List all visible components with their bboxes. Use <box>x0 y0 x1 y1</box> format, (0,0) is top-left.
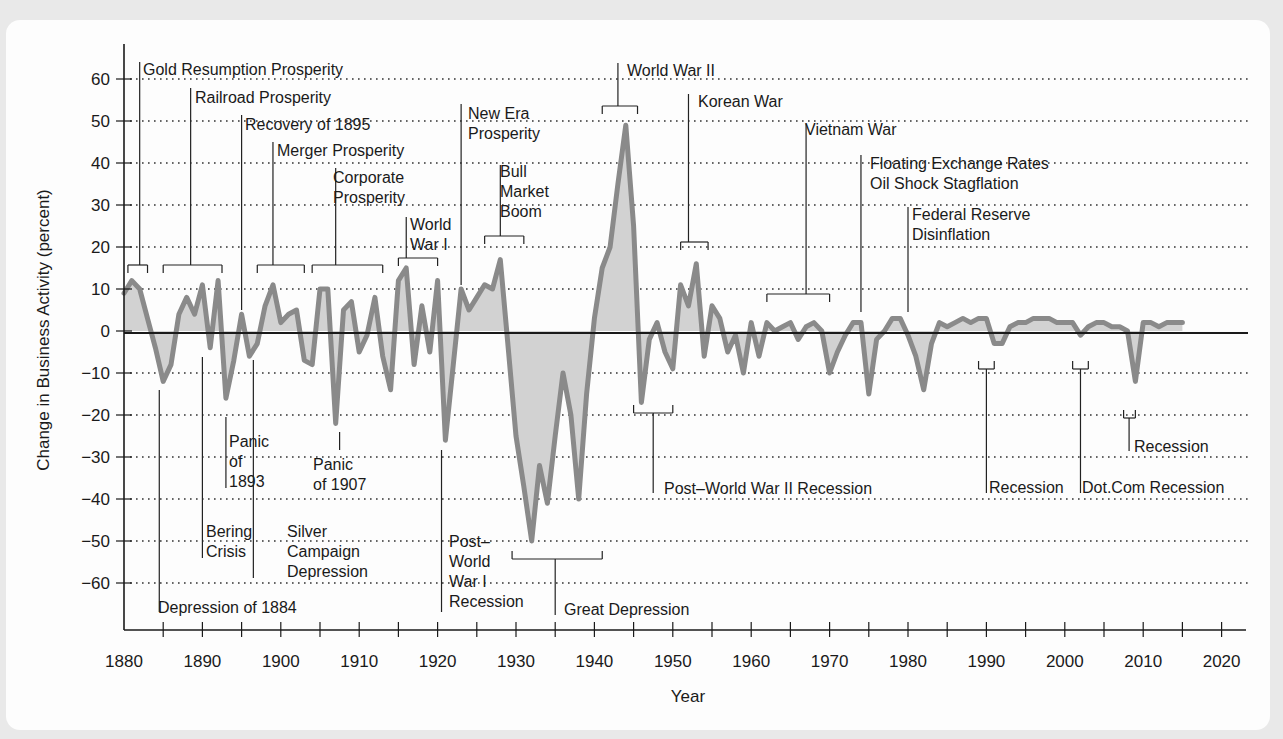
annotation-post-ww1: Post– <box>449 533 490 550</box>
annotation-post-ww1: War I <box>449 573 487 590</box>
y-tick-label: 50 <box>91 112 110 131</box>
y-tick-label: −30 <box>81 448 110 467</box>
annotation-silver: Silver <box>287 523 328 540</box>
x-tick-label: 2000 <box>1046 652 1084 671</box>
y-tick-label: −60 <box>81 574 110 593</box>
annotation-silver: Campaign <box>287 543 360 560</box>
annotation-bering: Bering <box>206 523 252 540</box>
y-tick-label: 20 <box>91 238 110 257</box>
annotation-floating-rates: Floating Exchange Rates <box>870 155 1049 172</box>
annotation-panic-1907: Panic <box>313 456 353 473</box>
annotation-bering: Crisis <box>206 543 246 560</box>
annotation-corporate: Corporate <box>333 169 404 186</box>
annotation-korean: Korean War <box>698 93 783 110</box>
x-tick-label: 2010 <box>1124 652 1162 671</box>
annotation-panic-1907: of 1907 <box>313 476 366 493</box>
annotation-ww1: World <box>410 216 452 233</box>
business-activity-chart: 6050403020100−10−20−30−40−50−60188018901… <box>6 20 1270 730</box>
annotation-panic-1893: Panic <box>229 433 269 450</box>
y-tick-label: 60 <box>91 70 110 89</box>
y-tick-label: 10 <box>91 280 110 299</box>
annotation-new-era: New Era <box>468 105 529 122</box>
annotation-recession-1990: Recession <box>989 479 1064 496</box>
annotation-recovery-1895: Recovery of 1895 <box>245 116 371 133</box>
x-tick-label: 1970 <box>811 652 849 671</box>
x-tick-label: 1950 <box>654 652 692 671</box>
annotation-post-ww1: World <box>449 553 491 570</box>
x-tick-label: 1890 <box>183 652 221 671</box>
x-tick-label: 1960 <box>732 652 770 671</box>
y-tick-label: 40 <box>91 154 110 173</box>
annotation-bull-market: Market <box>500 183 549 200</box>
x-tick-label: 1880 <box>105 652 143 671</box>
annotation-new-era: Prosperity <box>468 125 540 142</box>
annotation-fed-disinflation: Disinflation <box>912 226 990 243</box>
x-tick-label: 1910 <box>340 652 378 671</box>
annotation-panic-1893: of <box>229 453 243 470</box>
annotation-dotcom: Dot.Com Recession <box>1082 479 1224 496</box>
annotation-floating-rates: Oil Shock Stagflation <box>870 175 1019 192</box>
annotation-corporate: Prosperity <box>333 189 405 206</box>
annotation-merger: Merger Prosperity <box>277 142 404 159</box>
x-tick-label: 1900 <box>262 652 300 671</box>
y-tick-label: −10 <box>81 364 110 383</box>
x-tick-label: 1980 <box>889 652 927 671</box>
x-tick-label: 1990 <box>967 652 1005 671</box>
annotation-post-ww2: Post–World War II Recession <box>664 480 872 497</box>
y-axis-label: Change in Business Activity (percent) <box>34 189 53 471</box>
annotation-ww2: World War II <box>627 62 715 79</box>
annotation-ww1: War I <box>410 236 448 253</box>
annotation-post-ww1: Recession <box>449 593 524 610</box>
annotation-bull-market: Boom <box>500 203 542 220</box>
x-tick-label: 1940 <box>575 652 613 671</box>
annotation-vietnam: Vietnam War <box>805 121 897 138</box>
y-tick-label: −40 <box>81 490 110 509</box>
chart-card: 6050403020100−10−20−30−40−50−60188018901… <box>6 20 1270 730</box>
y-tick-label: −50 <box>81 532 110 551</box>
annotation-great-depression: Great Depression <box>564 601 689 618</box>
y-tick-label: −20 <box>81 406 110 425</box>
axes: 6050403020100−10−20−30−40−50−60188018901… <box>81 44 1248 671</box>
annotation-gold-resumption: Gold Resumption Prosperity <box>143 61 343 78</box>
y-tick-label: 30 <box>91 196 110 215</box>
annotation-silver: Depression <box>287 563 368 580</box>
annotation-depression-1884: Depression of 1884 <box>158 599 297 616</box>
x-tick-label: 2020 <box>1203 652 1241 671</box>
x-axis-label: Year <box>671 687 706 706</box>
annotation-recession-2008: Recession <box>1134 438 1209 455</box>
x-tick-label: 1920 <box>419 652 457 671</box>
y-tick-label: 0 <box>101 322 110 341</box>
annotation-railroad: Railroad Prosperity <box>195 89 331 106</box>
annotation-fed-disinflation: Federal Reserve <box>912 206 1030 223</box>
annotation-panic-1893: 1893 <box>229 473 265 490</box>
annotation-bull-market: Bull <box>500 163 527 180</box>
x-tick-label: 1930 <box>497 652 535 671</box>
